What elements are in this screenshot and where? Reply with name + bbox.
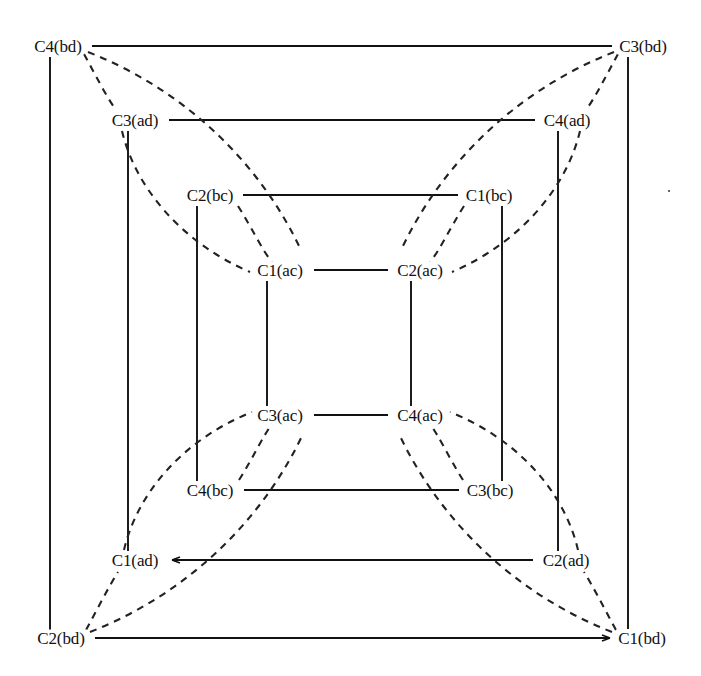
- node-label-C1ad[interactable]: C1(ad): [110, 552, 161, 569]
- dashed-edges-bottom-right: [400, 412, 616, 632]
- dashed-edges-top-right: [402, 52, 618, 272]
- dashed-C4bc-C3ac: [239, 424, 272, 480]
- node-label-C3bc[interactable]: C3(bc): [465, 482, 516, 499]
- edge-tip-marks: [172, 557, 610, 641]
- dashed-edges-top-left: [84, 52, 300, 272]
- node-label-C2bd[interactable]: C2(bd): [35, 630, 87, 647]
- node-label-C3ac[interactable]: C3(ac): [255, 407, 305, 424]
- dashed-C2bd-C1ad: [86, 572, 118, 630]
- diagram-vector-layer: [0, 0, 701, 676]
- node-label-C1ac[interactable]: C1(ac): [255, 262, 305, 279]
- graph-diagram-canvas: C4(bd) C3(bd) C2(bd) C1(bd) C3(ad) C4(ad…: [0, 0, 701, 676]
- node-label-C3bd[interactable]: C3(bd): [617, 38, 669, 55]
- dashed-C4bd-C3ad: [84, 54, 116, 110]
- node-label-C4bd[interactable]: C4(bd): [32, 38, 84, 55]
- dashed-C3bd-C4ad: [586, 54, 618, 110]
- dashed-C2bd-C3ac: [90, 436, 302, 632]
- scan-speck: [668, 190, 670, 192]
- node-label-C2bc[interactable]: C2(bc): [185, 187, 236, 204]
- node-label-C4ac[interactable]: C4(ac): [395, 407, 445, 424]
- dashed-C4bd-C1ac: [88, 52, 300, 248]
- dashed-C3bd-C2ac: [402, 52, 614, 248]
- node-label-C4ad[interactable]: C4(ad): [542, 112, 593, 129]
- dashed-C1bc-C2ac: [430, 206, 464, 262]
- solid-edges-ring-bc: [197, 195, 502, 490]
- node-label-C1bd[interactable]: C1(bd): [616, 630, 668, 647]
- dashed-C2bc-C1ac: [238, 206, 272, 262]
- node-label-C2ac[interactable]: C2(ac): [395, 262, 445, 279]
- solid-edges-ring-ac: [267, 270, 411, 415]
- dashed-C1bd-C4ac: [400, 436, 612, 632]
- dashed-C3bc-C4ac: [430, 424, 463, 480]
- node-label-C4bc[interactable]: C4(bc): [185, 482, 236, 499]
- dashed-C1bd-C2ad: [584, 572, 616, 630]
- dashed-edges-bottom-left: [86, 412, 302, 632]
- node-label-C1bc[interactable]: C1(bc): [464, 187, 515, 204]
- solid-edges-ring-bd: [50, 46, 628, 638]
- node-label-C3ad[interactable]: C3(ad): [110, 112, 161, 129]
- node-label-C2ad[interactable]: C2(ad): [541, 552, 592, 569]
